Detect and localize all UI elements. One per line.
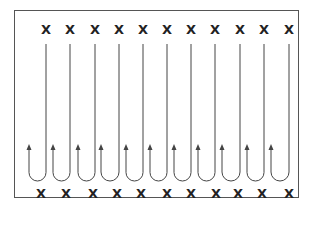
arrowhead-icon: [196, 144, 201, 150]
arrowhead-icon: [124, 144, 129, 150]
bottom-x-marker: X: [284, 187, 294, 200]
bottom-x-marker: X: [88, 187, 98, 200]
bottom-x-marker: X: [233, 187, 243, 200]
bottom-x-marker: X: [186, 187, 196, 200]
loop-path: [29, 44, 46, 181]
top-x-marker: X: [210, 23, 220, 36]
loop-path: [271, 44, 289, 181]
bottom-x-marker: X: [112, 187, 122, 200]
bottom-x-marker: X: [136, 187, 146, 200]
bottom-x-marker: X: [257, 187, 267, 200]
loop-path: [174, 44, 191, 181]
top-x-marker: X: [186, 23, 196, 36]
bottom-x-marker: X: [61, 187, 71, 200]
top-x-marker: X: [41, 23, 51, 36]
bottom-x-marker: X: [211, 187, 221, 200]
loop-path: [222, 44, 240, 181]
arrowhead-icon: [99, 144, 104, 150]
loop-path: [78, 44, 95, 181]
arrowhead-icon: [51, 144, 56, 150]
arrowhead-icon: [220, 144, 225, 150]
loop-path: [101, 44, 119, 181]
bottom-x-marker: X: [36, 187, 46, 200]
top-x-marker: X: [90, 23, 100, 36]
top-x-marker: X: [114, 23, 124, 36]
arrowhead-icon: [269, 144, 274, 150]
loop-path: [53, 44, 70, 181]
arrowhead-icon: [76, 144, 81, 150]
top-x-marker: X: [65, 23, 75, 36]
loop-path: [247, 44, 264, 181]
bottom-x-marker: X: [162, 187, 172, 200]
arrowhead-icon: [148, 144, 153, 150]
top-x-marker: X: [138, 23, 148, 36]
top-x-marker: X: [235, 23, 245, 36]
loop-path: [150, 44, 167, 181]
top-x-marker: X: [162, 23, 172, 36]
arrowhead-icon: [172, 144, 177, 150]
arrowhead-icon: [27, 144, 32, 150]
top-x-marker: X: [284, 23, 294, 36]
loop-path: [126, 44, 143, 181]
top-x-marker: X: [259, 23, 269, 36]
loop-path: [198, 44, 215, 181]
arrowhead-icon: [245, 144, 250, 150]
